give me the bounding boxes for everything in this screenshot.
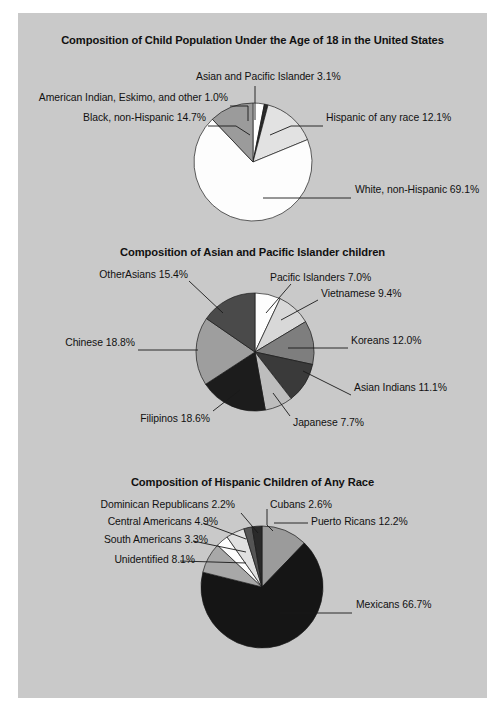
chart-3-label-mexicans: Mexicans 66.7% <box>356 599 432 610</box>
chart-3-label-cubans: Cubans 2.6% <box>270 499 332 510</box>
chart-1-label-american-indian: American Indian, Eskimo, and other 1.0% <box>18 92 228 103</box>
chart-1-label-hispanic-any-race: Hispanic of any race 12.1% <box>326 112 451 123</box>
chart-3-label-dominican-republicans: Dominican Republicans 2.2% <box>18 499 235 510</box>
chart-1-label-white-non-hispanic: White, non-Hispanic 69.1% <box>355 184 479 195</box>
chart-1-label-asian-pacific-islander: Asian and Pacific Islander 3.1% <box>196 71 341 82</box>
chart-1-pie <box>193 102 313 222</box>
chart-3-label-unidentified: Unidentified 8.1% <box>18 554 195 565</box>
chart-3-title: Composition of Hispanic Children of Any … <box>18 476 487 488</box>
chart-2-label-vietnamese: Vietnamese 9.4% <box>321 288 402 299</box>
chart-1-title: Composition of Child Population Under th… <box>18 34 487 46</box>
chart-2-label-pacific-islanders: Pacific Islanders 7.0% <box>270 272 371 283</box>
chart-2-label-other-asians: OtherAsians 15.4% <box>18 269 188 280</box>
chart-2-label-chinese: Chinese 18.8% <box>18 337 135 348</box>
chart-2-title: Composition of Asian and Pacific Islande… <box>18 246 487 258</box>
chart-2-label-filipinos: Filipinos 18.6% <box>18 413 210 424</box>
chart-2-label-japanese: Japanese 7.7% <box>293 417 364 428</box>
chart-3-pie <box>200 525 324 649</box>
chart-3-label-south-americans: South Americans 3.3% <box>18 534 208 545</box>
chart-2-pie <box>195 292 315 412</box>
chart-3-label-central-americans: Central Americans 4.9% <box>18 516 218 527</box>
chart-2-label-koreans: Koreans 12.0% <box>351 335 421 346</box>
chart-3-label-puerto-ricans: Puerto Ricans 12.2% <box>311 516 408 527</box>
page-sheet: Composition of Child Population Under th… <box>18 13 487 698</box>
chart-1-label-black-non-hispanic: Black, non-Hispanic 14.7% <box>18 112 206 123</box>
chart-2-label-asian-indians: Asian Indians 11.1% <box>354 382 447 393</box>
